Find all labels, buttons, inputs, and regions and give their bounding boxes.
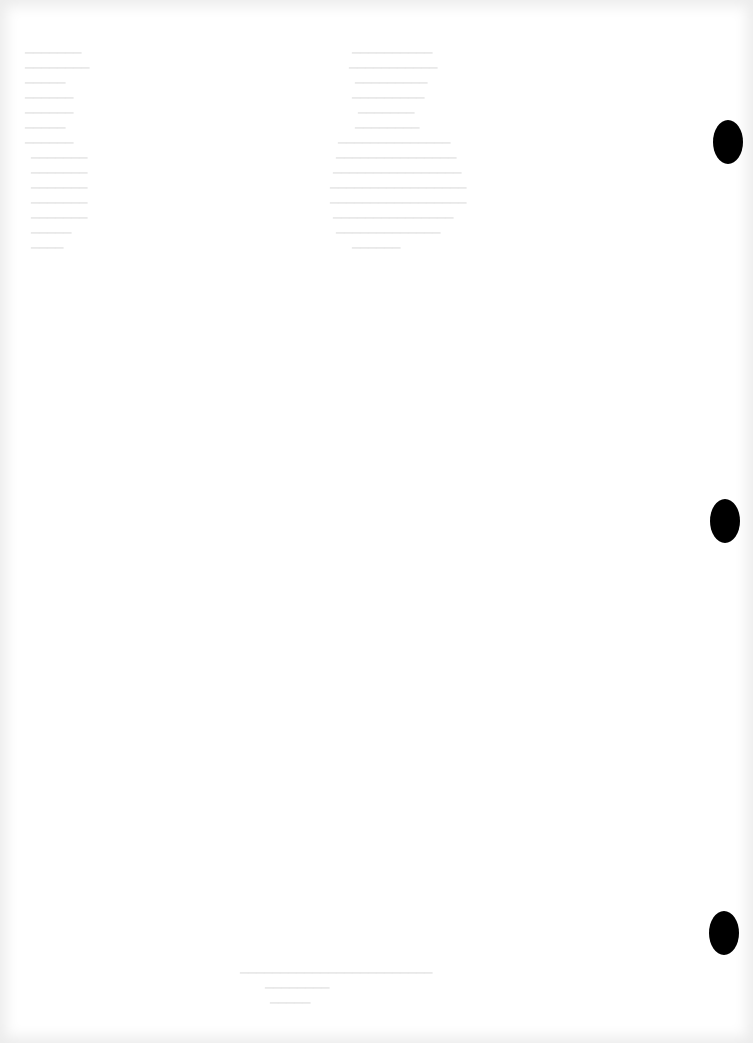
punch-hole-bottom — [709, 911, 739, 955]
show-through-text-bottom: ▁▁▁▁▁▁▁▁▁▁▁▁▁▁▁▁▁▁▁▁▁▁▁▁ ▁▁▁▁▁▁▁▁ ▁▁▁▁▁ — [240, 960, 570, 1005]
show-through-text-left: ▁▁▁▁▁▁▁ ▁▁▁▁▁▁▁▁ ▁▁▁▁▁ ▁▁▁▁▁▁ ▁▁▁▁▁▁ ▁▁▁… — [25, 40, 215, 250]
scanned-page: ▁▁▁▁▁▁▁ ▁▁▁▁▁▁▁▁ ▁▁▁▁▁ ▁▁▁▁▁▁ ▁▁▁▁▁▁ ▁▁▁… — [0, 0, 753, 1043]
punch-hole-top — [713, 120, 743, 164]
punch-hole-middle — [710, 499, 740, 543]
show-through-text-center: ▁▁▁▁▁▁▁▁▁▁ ▁▁▁▁▁▁▁▁▁▁▁ ▁▁▁▁▁▁▁▁▁ ▁▁▁▁▁▁▁… — [330, 40, 600, 250]
